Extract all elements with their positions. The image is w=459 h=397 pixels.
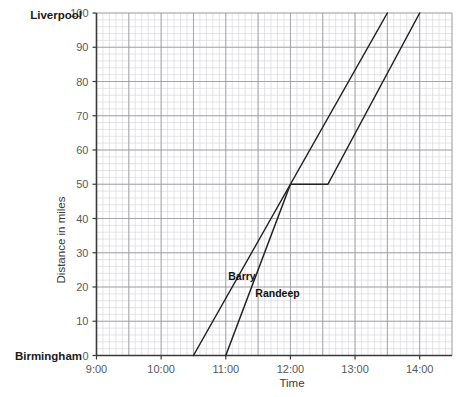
y-tick-label-0: 0 <box>82 350 88 362</box>
y-axis-title: Distance in miles <box>55 196 67 283</box>
y-tick-label-70: 70 <box>76 110 88 122</box>
y-tick-label-30: 30 <box>76 247 88 259</box>
grid-major-lines <box>97 13 453 356</box>
x-tick-label-10-00: 10:00 <box>147 363 175 375</box>
x-tick-label-13-00: 13:00 <box>341 363 369 375</box>
series-label-barry: Barry <box>228 270 256 282</box>
y-tick-label-50: 50 <box>76 178 88 190</box>
x-axis-title: Time <box>279 377 304 389</box>
x-tick-label-12-00: 12:00 <box>277 363 305 375</box>
y-tick-label-10: 10 <box>76 315 88 327</box>
y-tick-label-90: 90 <box>76 41 88 53</box>
x-axis-ticks: 9:0010:0011:0012:0013:0014:00 <box>86 356 434 375</box>
x-tick-label-9-00: 9:00 <box>86 363 107 375</box>
y-tick-label-60: 60 <box>76 144 88 156</box>
y-axis-ticks: 0102030405060708090100 <box>70 7 96 362</box>
chart-canvas: 0102030405060708090100 9:0010:0011:0012:… <box>0 0 459 397</box>
series-label-randeep: Randeep <box>255 287 299 299</box>
y-tick-label-40: 40 <box>76 213 88 225</box>
liverpool-endpoint-label: Liverpool <box>30 9 82 21</box>
y-tick-label-20: 20 <box>76 281 88 293</box>
distance-time-chart: 0102030405060708090100 9:0010:0011:0012:… <box>0 0 459 397</box>
y-tick-label-80: 80 <box>76 76 88 88</box>
x-tick-label-11-00: 11:00 <box>212 363 239 375</box>
birmingham-endpoint-label: Birmingham <box>15 350 82 362</box>
x-tick-label-14-00: 14:00 <box>406 363 434 375</box>
